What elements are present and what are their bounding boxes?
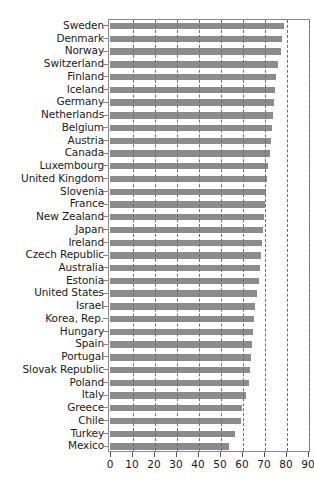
bar: [110, 392, 246, 398]
category-tick: [103, 267, 108, 268]
category-label: Norway: [65, 44, 104, 57]
bar: [110, 87, 275, 93]
category-label: Greece: [67, 401, 104, 414]
value-tick-90: [308, 452, 309, 457]
bar-row: [109, 186, 309, 199]
category-tick: [103, 51, 108, 52]
bar: [110, 405, 242, 411]
category-label: Turkey: [70, 427, 104, 440]
category-label: Belgium: [62, 121, 104, 134]
category-tick: [103, 153, 108, 154]
value-tick-80: [286, 452, 287, 457]
bar-row: [109, 96, 309, 109]
category-label: Denmark: [56, 32, 104, 45]
category-tick: [103, 76, 108, 77]
category-label: France: [70, 197, 104, 210]
category-tick: [103, 280, 108, 281]
bar-row: [109, 135, 309, 148]
category-tick: [103, 102, 108, 103]
bar-row: [109, 287, 309, 300]
bar-row: [109, 33, 309, 46]
value-tick-0: [110, 452, 111, 457]
bar: [110, 354, 251, 360]
category-tick: [103, 204, 108, 205]
bar: [110, 125, 272, 131]
bar-chart: SwedenDenmarkNorwaySwitzerlandFinlandIce…: [0, 0, 314, 490]
bar-row: [109, 211, 309, 224]
bar-row: [109, 122, 309, 135]
bar: [110, 99, 274, 105]
bar-row: [109, 109, 309, 122]
category-tick: [103, 38, 108, 39]
category-label: Czech Republic: [25, 248, 104, 261]
category-tick: [103, 344, 108, 345]
bar: [110, 112, 273, 118]
bar-row: [109, 84, 309, 97]
gridline-70: [265, 20, 266, 451]
bar: [110, 36, 282, 42]
category-label: Luxembourg: [40, 159, 104, 172]
bar-row: [109, 224, 309, 237]
category-label: New Zealand: [36, 210, 104, 223]
bar: [110, 341, 252, 347]
category-tick: [103, 140, 108, 141]
bar: [110, 431, 235, 437]
bar-row: [109, 313, 309, 326]
value-tick-20: [154, 452, 155, 457]
bar-row: [109, 198, 309, 211]
bar: [110, 316, 254, 322]
bar-row: [109, 147, 309, 160]
bar: [110, 367, 250, 373]
category-tick: [103, 165, 108, 166]
value-tick-label-90: 90: [293, 458, 314, 470]
value-tick-70: [264, 452, 265, 457]
bar-row: [109, 338, 309, 351]
category-label: Spain: [75, 337, 104, 350]
bar: [110, 138, 271, 144]
category-label: Slovenia: [60, 185, 104, 198]
category-tick: [103, 229, 108, 230]
bar-row: [109, 428, 309, 441]
bar-row: [109, 71, 309, 84]
category-label: Australia: [58, 261, 104, 274]
bar-row: [109, 173, 309, 186]
gridline-20: [155, 20, 156, 451]
category-tick: [103, 127, 108, 128]
category-tick: [103, 356, 108, 357]
category-tick: [103, 64, 108, 65]
category-label: Iceland: [67, 83, 104, 96]
category-label: United States: [34, 286, 104, 299]
category-label: Chile: [78, 414, 104, 427]
bar: [110, 23, 284, 29]
category-label: Korea, Rep.: [45, 312, 104, 325]
category-tick: [103, 369, 108, 370]
category-label: Japan: [75, 223, 104, 236]
bar-row: [109, 326, 309, 339]
gridline-90: [309, 20, 310, 451]
value-tick-30: [176, 452, 177, 457]
gridline-80: [287, 20, 288, 451]
bar-row: [109, 249, 309, 262]
bar-row: [109, 45, 309, 58]
bar: [110, 61, 278, 67]
bar: [110, 443, 229, 449]
category-label: Sweden: [63, 19, 104, 32]
category-label: Estonia: [66, 274, 104, 287]
category-tick: [103, 318, 108, 319]
gridline-10: [133, 20, 134, 451]
gridline-50: [221, 20, 222, 451]
bar-row: [109, 377, 309, 390]
category-label: Poland: [70, 376, 104, 389]
gridline-60: [243, 20, 244, 451]
category-tick: [103, 306, 108, 307]
category-tick: [103, 89, 108, 90]
category-tick: [103, 382, 108, 383]
category-label: Hungary: [60, 325, 104, 338]
category-tick: [103, 395, 108, 396]
category-tick: [103, 25, 108, 26]
bar: [110, 380, 249, 386]
bar-row: [109, 20, 309, 33]
category-label: Israel: [76, 299, 104, 312]
category-tick: [103, 255, 108, 256]
category-label: Netherlands: [41, 108, 104, 121]
